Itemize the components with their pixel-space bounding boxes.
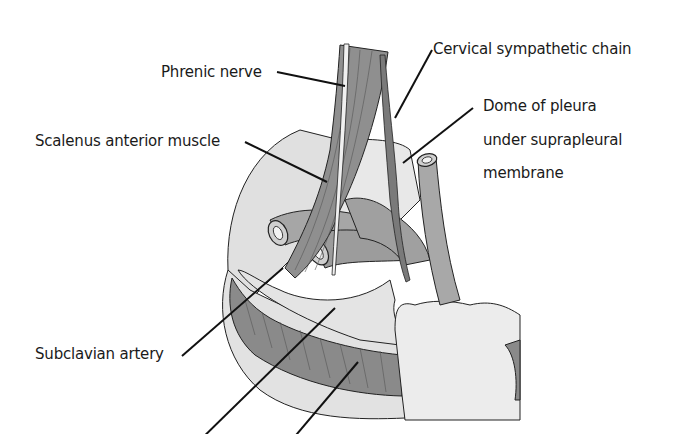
manubrium-shape: [395, 301, 520, 420]
label-cervical-sympathetic-chain: Cervical sympathetic chain: [433, 40, 631, 59]
anatomy-diagram: Phrenic nerve Cervical sympathetic chain…: [0, 0, 676, 434]
label-dome-of-pleura-line1: Dome of pleura: [483, 97, 597, 116]
label-scalenus-anterior: Scalenus anterior muscle: [35, 132, 220, 151]
label-subclavian-artery: Subclavian artery: [35, 345, 164, 364]
label-dome-of-pleura-line3: membrane: [483, 164, 563, 183]
label-phrenic-nerve: Phrenic nerve: [161, 63, 262, 82]
carotid-artery-shape: [418, 158, 460, 305]
label-dome-of-pleura-line2: under suprapleural: [483, 131, 622, 150]
illustration: [0, 0, 676, 434]
